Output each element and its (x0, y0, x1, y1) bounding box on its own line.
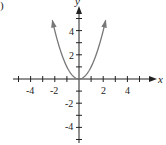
x-tick-label: 2 (101, 85, 106, 96)
x-axis-label: x (157, 73, 163, 85)
x-tick-label: 4 (125, 85, 130, 96)
y-tick-label: 2 (69, 50, 74, 61)
x-tick-label: -2 (50, 85, 58, 96)
y-axis-arrow-icon (76, 6, 82, 14)
part-label: ) (0, 0, 4, 12)
chart: ) x y -4 -2 2 4 4 2 -2 -4 (0, 0, 166, 145)
curve-arrow-left-icon (51, 19, 56, 27)
y-tick-label: 4 (69, 26, 74, 37)
y-axis-label: y (74, 0, 80, 7)
x-tick-label: -4 (26, 85, 34, 96)
curve-arrow-right-icon (101, 19, 106, 27)
x-axis-arrow-icon (149, 76, 157, 82)
x-axis: x (13, 73, 163, 85)
y-tick-label: -4 (65, 121, 73, 132)
y-tick-label: -2 (65, 98, 73, 109)
y-axis: y (74, 0, 82, 143)
